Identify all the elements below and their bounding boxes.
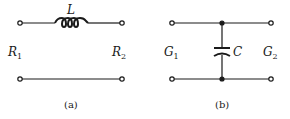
terminal-a-top-right bbox=[120, 21, 124, 25]
caption-a: (a) bbox=[64, 99, 78, 110]
junction-b-bottom bbox=[220, 77, 224, 81]
circuit-diagram: L R1 R2 (a) C G1 G2 (b) bbox=[0, 0, 290, 119]
terminal-b-top-right bbox=[269, 21, 273, 25]
circuit-a bbox=[18, 18, 124, 81]
inductor-label: L bbox=[66, 3, 75, 17]
terminal-a-top-left bbox=[18, 21, 22, 25]
load-conductance-label: G2 bbox=[263, 45, 278, 61]
capacitor-icon bbox=[214, 48, 230, 56]
circuit-b bbox=[170, 21, 273, 81]
load-resistance-label: R2 bbox=[111, 45, 126, 61]
capacitor-label: C bbox=[233, 45, 242, 59]
terminal-b-bottom-left bbox=[170, 77, 174, 81]
terminal-b-top-left bbox=[170, 21, 174, 25]
caption-b: (b) bbox=[215, 99, 229, 110]
source-resistance-label: R1 bbox=[7, 45, 22, 61]
source-conductance-label: G1 bbox=[164, 45, 179, 61]
inductor-icon bbox=[55, 18, 88, 27]
terminal-a-bottom-right bbox=[120, 77, 124, 81]
terminal-a-bottom-left bbox=[18, 77, 22, 81]
terminal-b-bottom-right bbox=[269, 77, 273, 81]
junction-b-top bbox=[220, 21, 224, 25]
